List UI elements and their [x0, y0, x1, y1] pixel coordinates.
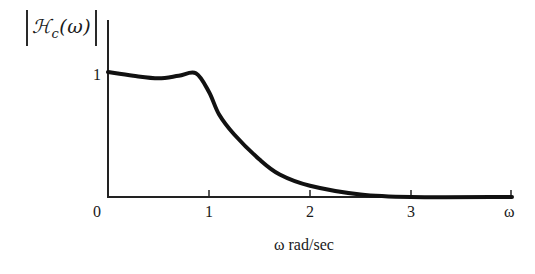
- y-axis-label: ℋc(ω): [22, 10, 101, 46]
- y-symbol: ℋ: [32, 15, 52, 37]
- x-tick-0: 0: [93, 203, 101, 221]
- x-tick-2: 2: [306, 203, 314, 221]
- x-axis-label: ω rad/sec: [274, 236, 334, 254]
- x-axis-end-omega: ω: [504, 203, 515, 221]
- magnitude-curve: [108, 72, 512, 197]
- x-tick-3: 3: [407, 203, 415, 221]
- abs-bar-right: [95, 10, 97, 46]
- x-tick-1: 1: [205, 203, 213, 221]
- y-argument: (ω): [59, 15, 91, 37]
- y-tick-1: 1: [93, 66, 101, 84]
- abs-bar-left: [26, 10, 28, 46]
